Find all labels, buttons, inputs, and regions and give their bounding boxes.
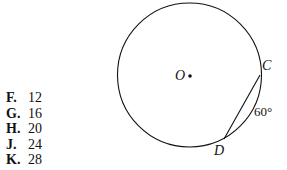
center-point <box>188 74 192 78</box>
arc-angle-label: 60° <box>254 104 272 119</box>
circle-diagram: O C D 60° <box>0 0 287 170</box>
center-label: O <box>175 68 185 83</box>
point-d-label: D <box>213 143 224 158</box>
point-c-label: C <box>262 58 272 73</box>
